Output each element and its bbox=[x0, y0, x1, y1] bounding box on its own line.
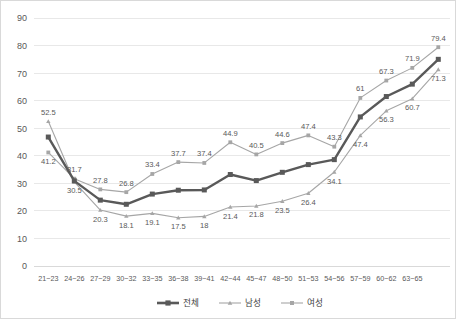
data-point-marker bbox=[332, 157, 337, 162]
data-label: 47.4 bbox=[301, 122, 316, 131]
data-point-marker bbox=[46, 135, 51, 140]
data-point-marker bbox=[228, 140, 232, 144]
data-label: 60.7 bbox=[405, 103, 420, 112]
y-axis-tick-label: 40 bbox=[17, 151, 27, 161]
line-chart-container: 010203040506070809021~2324~2627~2930~323… bbox=[0, 0, 456, 319]
y-axis-tick-label: 90 bbox=[17, 13, 27, 23]
data-point-marker bbox=[384, 94, 389, 99]
data-point-marker bbox=[280, 170, 285, 175]
x-axis-category-label: 54~56 bbox=[324, 274, 344, 283]
x-axis-category-label: 48~50 bbox=[272, 274, 292, 283]
data-label: 67.3 bbox=[379, 67, 394, 76]
endpoint-data-label: 79.4 bbox=[431, 34, 446, 43]
x-axis-category-label: 27~29 bbox=[90, 274, 110, 283]
data-point-marker bbox=[358, 96, 362, 100]
data-point-marker bbox=[436, 57, 441, 62]
data-label: 71.9 bbox=[405, 54, 420, 63]
data-point-marker bbox=[436, 45, 440, 49]
chart-legend: 전체남성여성 bbox=[157, 297, 323, 308]
series-남성 bbox=[46, 67, 440, 219]
x-axis-category-label: 24~26 bbox=[64, 274, 84, 283]
legend-marker-여성 bbox=[290, 301, 294, 305]
data-point-marker bbox=[306, 133, 310, 137]
y-axis-tick-label: 10 bbox=[17, 234, 27, 244]
data-label: 37.7 bbox=[171, 149, 186, 158]
x-axis-category-label: 33~35 bbox=[142, 274, 162, 283]
data-point-marker bbox=[332, 145, 336, 149]
data-point-marker bbox=[280, 141, 284, 145]
legend-marker-전체 bbox=[165, 300, 170, 305]
y-axis-tick-label: 50 bbox=[17, 124, 27, 134]
data-label: 17.5 bbox=[171, 222, 186, 231]
data-point-marker bbox=[202, 161, 206, 165]
data-point-marker bbox=[306, 162, 311, 167]
data-point-marker bbox=[150, 172, 154, 176]
legend-label-여성: 여성 bbox=[307, 297, 323, 308]
x-axis-category-label: 60~62 bbox=[376, 274, 396, 283]
data-label: 20.3 bbox=[93, 215, 108, 224]
data-label: 19.1 bbox=[145, 218, 160, 227]
data-label: 43.3 bbox=[327, 133, 342, 142]
data-label: 26.8 bbox=[119, 179, 134, 188]
y-axis-tick-label: 60 bbox=[17, 96, 27, 106]
data-label: 47.4 bbox=[353, 140, 368, 149]
data-label: 40.5 bbox=[249, 141, 264, 150]
chart-canvas: 010203040506070809021~2324~2627~2930~323… bbox=[1, 1, 456, 319]
data-point-marker bbox=[384, 79, 388, 83]
legend-label-전체: 전체 bbox=[183, 298, 199, 308]
x-axis-category-label: 51~53 bbox=[298, 274, 318, 283]
x-axis-category-label: 30~32 bbox=[116, 274, 136, 283]
data-point-marker bbox=[46, 119, 50, 123]
data-point-marker bbox=[358, 114, 363, 119]
y-axis-tick-label: 30 bbox=[17, 179, 27, 189]
data-point-marker bbox=[436, 67, 440, 71]
x-axis-category-label: 63~65 bbox=[402, 274, 422, 283]
data-label: 23.5 bbox=[275, 206, 290, 215]
x-axis-category-label: 45~47 bbox=[246, 274, 266, 283]
endpoint-data-label: 71.3 bbox=[431, 74, 446, 83]
data-label: 21.4 bbox=[223, 212, 238, 221]
data-label: 27.8 bbox=[93, 176, 108, 185]
y-axis-tick-label: 20 bbox=[17, 206, 27, 216]
data-label: 31.7 bbox=[67, 165, 82, 174]
data-point-marker bbox=[98, 198, 103, 203]
data-label: 34.1 bbox=[327, 177, 342, 186]
data-label: 37.4 bbox=[197, 149, 212, 158]
x-axis-category-label: 36~38 bbox=[168, 274, 188, 283]
data-point-marker bbox=[228, 172, 233, 177]
data-label: 30.5 bbox=[67, 186, 82, 195]
legend-label-남성: 남성 bbox=[245, 298, 261, 308]
y-axis-tick-label: 80 bbox=[17, 41, 27, 51]
data-label: 33.4 bbox=[145, 160, 160, 169]
data-point-marker bbox=[410, 82, 415, 87]
data-label: 61 bbox=[356, 84, 364, 93]
data-point-marker bbox=[72, 178, 77, 183]
y-axis-tick-label: 70 bbox=[17, 69, 27, 79]
data-point-marker bbox=[98, 187, 102, 191]
data-label: 26.4 bbox=[301, 198, 316, 207]
x-axis-category-label: 42~44 bbox=[220, 274, 240, 283]
data-label: 18.1 bbox=[119, 221, 134, 230]
data-point-marker bbox=[202, 187, 207, 192]
series-line-남성 bbox=[48, 70, 438, 218]
data-point-marker bbox=[176, 160, 180, 164]
data-point-marker bbox=[124, 202, 129, 207]
data-point-marker bbox=[124, 190, 128, 194]
data-label: 44.9 bbox=[223, 129, 238, 138]
data-point-marker bbox=[254, 153, 258, 157]
data-point-marker bbox=[410, 66, 414, 70]
data-point-marker bbox=[176, 188, 181, 193]
x-axis-category-label: 39~41 bbox=[194, 274, 214, 283]
data-point-marker bbox=[254, 178, 259, 183]
data-label: 44.6 bbox=[275, 130, 290, 139]
y-axis-tick-label: 0 bbox=[22, 261, 27, 271]
data-label: 56.3 bbox=[379, 115, 394, 124]
data-label: 18 bbox=[200, 221, 208, 230]
data-label: 52.5 bbox=[41, 108, 56, 117]
data-label: 21.8 bbox=[249, 210, 264, 219]
data-label: 41.2 bbox=[41, 157, 56, 166]
x-axis-category-label: 57~59 bbox=[350, 274, 370, 283]
x-axis-category-label: 21~23 bbox=[38, 274, 58, 283]
data-point-marker bbox=[46, 151, 50, 155]
data-point-marker bbox=[150, 192, 155, 197]
